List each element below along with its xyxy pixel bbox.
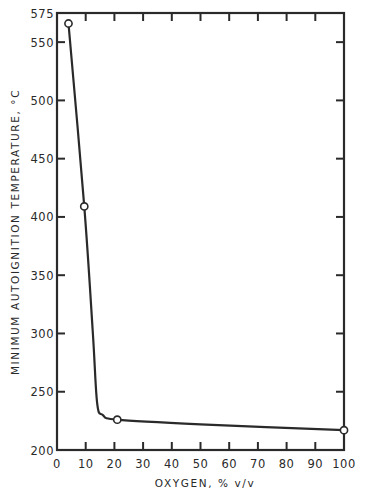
y-tick-label: 500 bbox=[31, 94, 54, 108]
chart: 200250300350400450500550575 010203040506… bbox=[0, 0, 365, 498]
x-tick-label: 70 bbox=[250, 457, 266, 471]
x-axis-ticks: 0102030405060708090100 bbox=[53, 13, 356, 471]
data-point-marker bbox=[65, 20, 72, 27]
x-tick-label: 90 bbox=[307, 457, 323, 471]
y-tick-label: 200 bbox=[31, 444, 54, 458]
data-point-marker bbox=[81, 203, 88, 210]
x-tick-label: 60 bbox=[221, 457, 237, 471]
y-tick-label: 550 bbox=[31, 36, 54, 50]
x-tick-label: 80 bbox=[279, 457, 295, 471]
data-point-marker bbox=[114, 416, 121, 423]
y-tick-label: 400 bbox=[31, 210, 54, 224]
x-tick-label: 10 bbox=[78, 457, 94, 471]
data-curve bbox=[68, 23, 344, 430]
y-axis-ticks: 200250300350400450500550575 bbox=[31, 7, 344, 458]
plot-frame bbox=[57, 13, 344, 450]
y-tick-label: 350 bbox=[31, 269, 54, 283]
data-point-marker bbox=[340, 427, 347, 434]
x-tick-label: 50 bbox=[193, 457, 209, 471]
x-tick-label: 30 bbox=[135, 457, 151, 471]
y-tick-label: 300 bbox=[31, 327, 54, 341]
y-tick-label: 450 bbox=[31, 152, 54, 166]
x-tick-label: 20 bbox=[107, 457, 123, 471]
data-markers bbox=[65, 20, 348, 434]
y-axis-title: MINIMUM AUTOIGNITION TEMPERATURE, °C bbox=[9, 89, 21, 375]
y-tick-label: 575 bbox=[31, 7, 54, 21]
x-tick-label: 0 bbox=[53, 457, 61, 471]
y-tick-label: 250 bbox=[31, 385, 54, 399]
x-tick-label: 100 bbox=[332, 457, 355, 471]
x-tick-label: 40 bbox=[164, 457, 180, 471]
x-axis-title: OXYGEN, % v/v bbox=[155, 477, 256, 489]
